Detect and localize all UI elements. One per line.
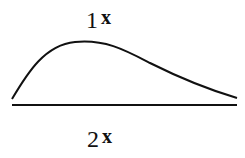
top-label-variable: x xyxy=(101,6,111,28)
top-label-number: 1 xyxy=(86,7,98,33)
bottom-label-variable: x xyxy=(102,125,112,147)
diagram-canvas xyxy=(0,0,245,158)
bottom-label: 2x xyxy=(87,127,112,151)
bottom-label-number: 2 xyxy=(87,126,99,152)
hump-curve xyxy=(12,42,237,99)
top-label: 1x xyxy=(86,8,111,32)
